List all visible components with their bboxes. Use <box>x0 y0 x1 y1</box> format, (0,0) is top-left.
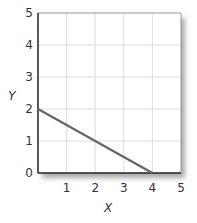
y-axis-label: Y <box>8 89 17 103</box>
y-tick-label: 4 <box>25 38 33 52</box>
y-tick-label: 0 <box>25 166 33 180</box>
y-tick-labels: 012345 <box>25 6 33 180</box>
x-axis-label: X <box>103 201 113 215</box>
x-tick-label: 2 <box>91 181 99 195</box>
y-tick-label: 2 <box>25 102 33 116</box>
y-tick-label: 3 <box>25 70 33 84</box>
y-tick-label: 5 <box>25 6 33 20</box>
chart: 12345 012345 X Y <box>0 0 197 223</box>
x-tick-label: 4 <box>149 181 157 195</box>
y-tick-label: 1 <box>25 134 33 148</box>
x-tick-label: 3 <box>120 181 128 195</box>
x-tick-labels: 12345 <box>63 181 185 195</box>
x-tick-label: 5 <box>177 181 185 195</box>
x-tick-label: 1 <box>63 181 71 195</box>
